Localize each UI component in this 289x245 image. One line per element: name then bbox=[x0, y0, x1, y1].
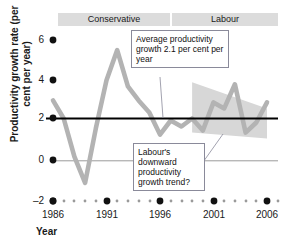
y-tick-label-0: 0 bbox=[22, 155, 44, 165]
x-tick-label-2006: 2006 bbox=[247, 210, 287, 220]
y-tick-marks bbox=[50, 37, 57, 205]
annotation-downward-trend: Labour's downward productivity growth tr… bbox=[133, 143, 205, 191]
x-tick-label-1996: 1996 bbox=[140, 210, 180, 220]
y-tick-label-6: 6 bbox=[22, 35, 44, 45]
annotation-average-growth: Average productivity growth 2.1 per cent… bbox=[131, 30, 229, 68]
x-tick-label-1991: 1991 bbox=[87, 210, 127, 220]
y-tick-label-2: 2 bbox=[22, 113, 44, 123]
x-tick-marks bbox=[50, 198, 280, 205]
x-axis-title: Year bbox=[36, 226, 57, 237]
x-tick-label-2001: 2001 bbox=[194, 210, 234, 220]
x-tick-label-1986: 1986 bbox=[33, 210, 73, 220]
chart-figure: Conservative Labour bbox=[0, 0, 289, 245]
y-tick-label-minus-2: –2 bbox=[22, 196, 44, 206]
y-tick-label-4: 4 bbox=[22, 75, 44, 85]
leader-line-average bbox=[160, 77, 163, 118]
